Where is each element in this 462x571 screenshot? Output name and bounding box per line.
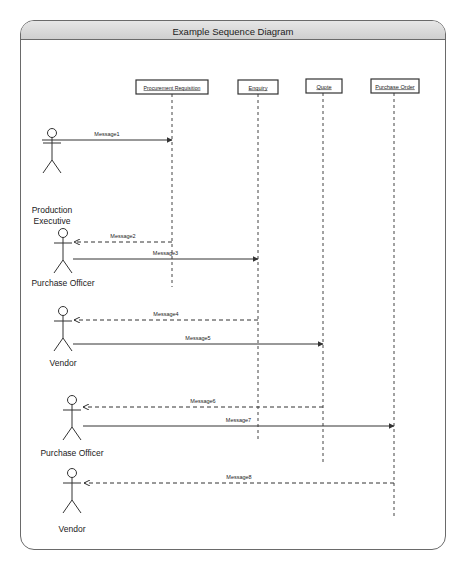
- object-label: Quote: [316, 84, 331, 90]
- actor-a5: Vendor: [59, 469, 86, 535]
- stick-figure-icon: [54, 307, 72, 352]
- message-3: Message3: [73, 250, 258, 259]
- sequence-diagram-canvas: Procurement RequisitionEnquiryQuotePurch…: [0, 0, 462, 571]
- message-label: Message2: [110, 233, 135, 239]
- objects-layer: Procurement RequisitionEnquiryQuotePurch…: [136, 79, 419, 518]
- actor-a4: Purchase Officer: [40, 396, 103, 459]
- actors-layer: ProductionExecutivePurchase OfficerVendo…: [31, 129, 103, 535]
- message-label: Message7: [226, 417, 251, 423]
- message-2: Message2: [74, 233, 172, 242]
- actor-label: Production: [32, 205, 73, 215]
- stick-figure-icon: [63, 469, 81, 514]
- message-7: Message7: [83, 417, 394, 426]
- object-label: Enquiry: [249, 85, 268, 91]
- actor-a1: ProductionExecutive: [32, 129, 73, 227]
- message-5: Message5: [73, 335, 323, 344]
- actor-label: Purchase Officer: [31, 278, 94, 288]
- message-4: Message4: [74, 311, 258, 320]
- messages-layer: Message1Message2Message3Message4Message5…: [42, 131, 394, 483]
- stick-figure-icon: [54, 229, 72, 274]
- actor-a3: Vendor: [50, 307, 77, 369]
- actor-label: Executive: [34, 216, 71, 226]
- actor-label: Vendor: [59, 524, 86, 534]
- message-8: Message8: [84, 474, 394, 483]
- message-1: Message1: [42, 131, 172, 140]
- stick-figure-icon: [43, 129, 61, 174]
- object-po: Purchase Order: [371, 79, 419, 518]
- object-quote: Quote: [306, 79, 342, 463]
- message-label: Message3: [153, 250, 178, 256]
- actor-label: Purchase Officer: [40, 448, 103, 458]
- message-label: Message5: [185, 335, 210, 341]
- message-label: Message4: [153, 311, 178, 317]
- message-label: Message8: [226, 474, 251, 480]
- message-label: Message1: [94, 131, 119, 137]
- stick-figure-icon: [63, 396, 81, 441]
- message-label: Message6: [190, 398, 215, 404]
- message-6: Message6: [83, 398, 323, 407]
- object-enq: Enquiry: [238, 80, 278, 442]
- actor-label: Vendor: [50, 358, 77, 368]
- object-label: Procurement Requisition: [144, 85, 201, 91]
- actor-a2: Purchase Officer: [31, 229, 94, 289]
- object-label: Purchase Order: [375, 84, 415, 90]
